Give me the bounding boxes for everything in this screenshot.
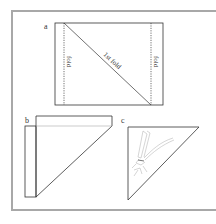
fold-left-label: fold: [65, 56, 73, 68]
fold-right-label: fold: [152, 56, 160, 68]
final-triangle: [128, 127, 199, 200]
figure-frame: [11, 11, 216, 211]
folded-side-strip: [25, 126, 36, 197]
panel-a: a fold fold 1st fold: [44, 22, 163, 105]
panel-b: b: [25, 116, 112, 197]
panel-a-label: a: [44, 22, 48, 31]
origami-fold-diagram: a fold fold 1st fold b c: [0, 0, 216, 224]
panel-b-label: b: [25, 116, 29, 125]
panel-c-label: c: [121, 116, 125, 125]
dragonfly-sketch-icon: [132, 131, 174, 176]
folded-triangle: [36, 116, 112, 197]
panel-c: c: [121, 116, 199, 200]
diagonal-fold-line: [64, 23, 151, 105]
